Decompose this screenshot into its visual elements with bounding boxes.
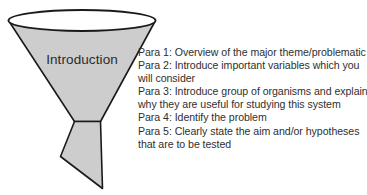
funnel-top-ellipse (9, 10, 156, 31)
note-line: Para 4: Identify the problem (138, 111, 366, 124)
note-line: Para 1: Overview of the major theme/prob… (138, 46, 366, 59)
note-line: Para 2: Introduce important variables wh… (138, 59, 366, 72)
funnel-label: Introduction (8, 52, 156, 67)
paragraph-notes-list: Para 1: Overview of the major theme/prob… (138, 46, 366, 151)
funnel-cone (9, 21, 156, 122)
note-line: that are to be tested (138, 138, 366, 151)
note-line: will consider (138, 72, 366, 85)
note-line: why they are useful for studying this sy… (138, 98, 366, 111)
note-line: Para 5: Clearly state the aim and/or hyp… (138, 125, 366, 138)
note-line: Para 3: Introduce group of organisms and… (138, 85, 366, 98)
diagram-canvas: Introduction Para 1: Overview of the maj… (0, 0, 367, 195)
funnel-stem (61, 122, 103, 189)
